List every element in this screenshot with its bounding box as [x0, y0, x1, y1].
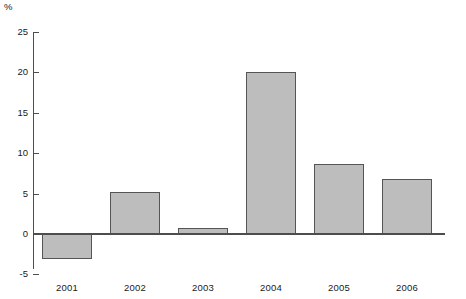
y-axis-tick [33, 274, 39, 275]
bar-chart: % 2520151050-5 200120022003200420052006 [0, 0, 466, 299]
y-axis-tick-label: 25 [0, 27, 28, 37]
x-axis-label-2003: 2003 [173, 282, 233, 293]
zero-baseline [33, 233, 445, 235]
y-axis-tick-label-text: 0 [2, 229, 28, 239]
plot-area: 2520151050-5 200120022003200420052006 [0, 0, 466, 299]
x-axis-label-2001: 2001 [37, 282, 97, 293]
bar-2002 [110, 192, 160, 234]
bar-2001 [42, 234, 92, 259]
x-axis-label-2005: 2005 [309, 282, 369, 293]
y-axis-tick [33, 194, 39, 195]
x-axis-label-2002: 2002 [105, 282, 165, 293]
x-axis-label-2006: 2006 [377, 282, 437, 293]
y-axis-tick-label: 5 [0, 189, 28, 199]
y-axis-tick-label: 20 [0, 67, 28, 77]
y-axis-tick [33, 32, 39, 33]
y-axis-tick-label-text: 15 [2, 108, 28, 118]
y-axis-tick-label-text: 5 [2, 189, 28, 199]
y-axis-tick [33, 72, 39, 73]
y-axis-tick-label: -5 [0, 269, 28, 279]
bar-2006 [382, 179, 432, 234]
bar-2005 [314, 164, 364, 234]
y-axis-tick [33, 153, 39, 154]
y-axis-tick-label-text: -5 [2, 269, 28, 279]
x-axis-label-2004: 2004 [241, 282, 301, 293]
y-axis-tick [33, 113, 39, 114]
y-axis-tick-label-text: 25 [2, 27, 28, 37]
y-axis-tick-label-text: 10 [2, 148, 28, 158]
y-axis-tick-label: 10 [0, 148, 28, 158]
y-axis-tick-label: 0 [0, 229, 28, 239]
y-axis-tick-label: 15 [0, 108, 28, 118]
bar-2004 [246, 72, 296, 234]
y-axis-tick-label-text: 20 [2, 67, 28, 77]
